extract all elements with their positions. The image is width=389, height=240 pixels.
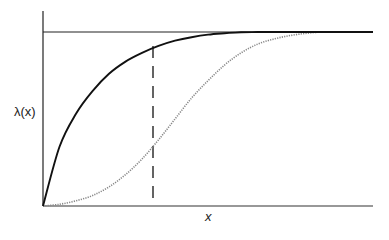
dotted-curve [43,32,373,206]
y-axis-label: λ(x) [14,104,36,119]
chart-canvas [0,0,389,240]
x-axis-label: x [205,209,212,224]
solid-curve [43,32,373,206]
